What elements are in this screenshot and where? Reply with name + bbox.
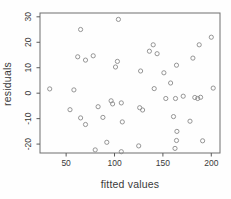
data-point: [137, 144, 141, 148]
data-point: [96, 105, 100, 109]
data-point: [164, 96, 168, 100]
y-tick-label: -10: [23, 112, 33, 125]
data-point: [209, 35, 213, 39]
data-point: [197, 43, 201, 47]
data-point: [48, 87, 52, 91]
data-point: [72, 88, 76, 92]
y-tick-label: -20: [23, 138, 33, 151]
data-point: [76, 55, 80, 59]
data-point: [201, 139, 205, 143]
data-point: [93, 148, 97, 152]
data-point: [147, 49, 151, 53]
data-point: [155, 52, 159, 56]
data-point: [152, 87, 156, 91]
data-point: [120, 120, 124, 124]
y-tick-label: 10: [23, 63, 33, 73]
data-point: [162, 71, 166, 75]
data-point: [211, 86, 215, 90]
data-point: [169, 81, 173, 85]
data-point: [113, 65, 117, 69]
y-tick-label: 20: [23, 37, 33, 47]
data-point: [151, 43, 155, 47]
data-point: [83, 58, 87, 62]
data-point: [79, 27, 83, 31]
data-point: [68, 108, 72, 112]
y-tick-label: 0: [23, 91, 33, 96]
y-axis-title: residuals: [1, 44, 13, 124]
data-point: [79, 116, 83, 120]
x-tick-label: 50: [61, 158, 71, 168]
data-point: [83, 122, 87, 126]
x-tick-label: 200: [204, 158, 218, 168]
data-point: [181, 94, 185, 98]
data-point: [173, 146, 177, 150]
data-point: [115, 59, 119, 63]
x-tick-label: 100: [107, 158, 121, 168]
data-point: [174, 63, 178, 67]
data-point: [174, 138, 178, 142]
data-point: [139, 69, 143, 73]
residuals-vs-fitted-scatter-figure: 50100150200-20-100102030 fitted values r…: [0, 0, 231, 199]
plot-canvas: 50100150200-20-100102030: [0, 0, 231, 199]
data-point: [191, 56, 195, 60]
data-point: [171, 115, 175, 119]
data-point: [91, 54, 95, 58]
x-tick-label: 150: [156, 158, 170, 168]
data-point: [175, 129, 179, 133]
data-point: [105, 140, 109, 144]
data-point: [141, 108, 145, 112]
data-point: [116, 17, 120, 21]
data-point: [173, 96, 177, 100]
plot-box: [40, 13, 220, 153]
data-point: [188, 119, 192, 123]
y-tick-label: 30: [23, 12, 33, 22]
x-axis-title: fitted values: [40, 178, 220, 190]
data-point: [101, 115, 105, 119]
data-point: [119, 101, 123, 105]
